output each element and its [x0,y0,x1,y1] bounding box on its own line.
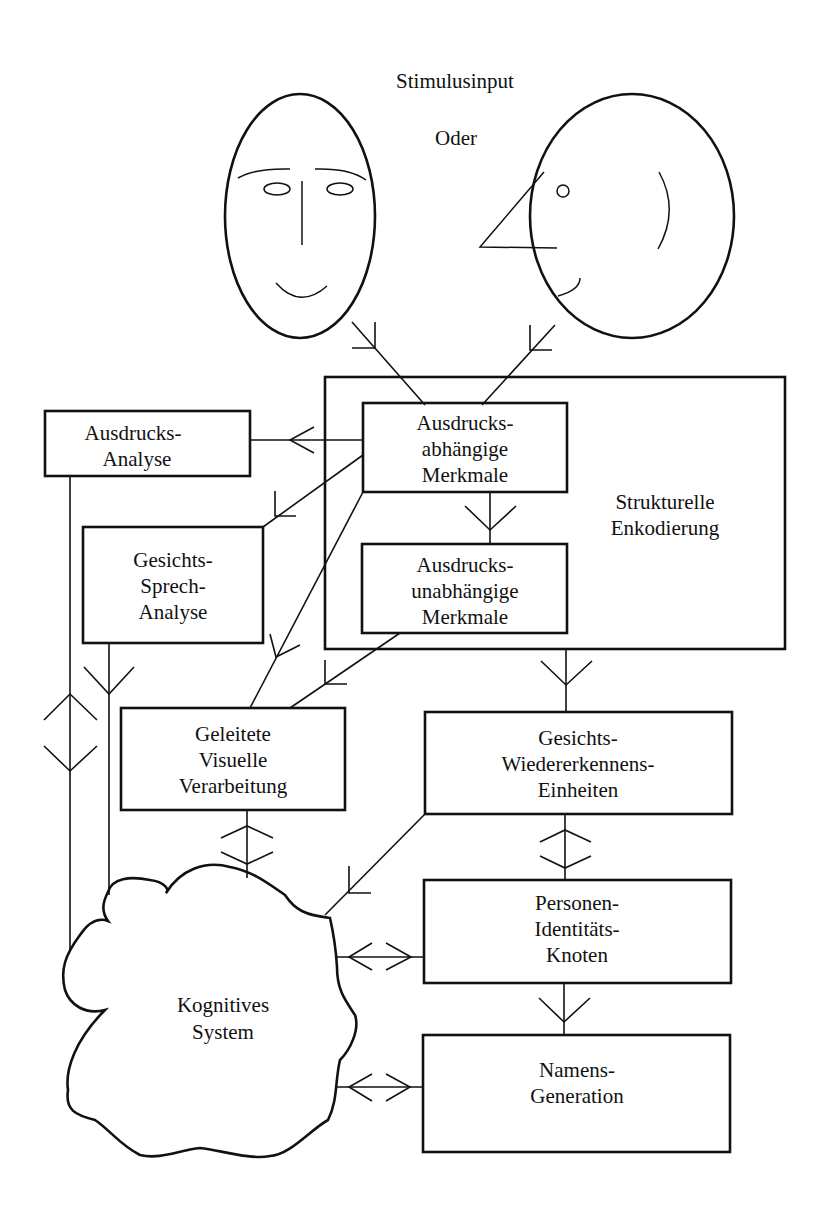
structural-encoding-box [325,377,785,649]
directed-visual-processing-label-2: Visuelle [199,748,268,772]
face-recognition-model-diagram: Stimulusinput Oder Strukturelle Enkodier… [0,0,822,1224]
expression-dependent-label-2: abhängige [422,437,508,461]
arrow-fru-to-cognitive [325,814,425,915]
name-generation-label-1: Namens- [539,1058,615,1082]
arrow-to-expression-analysis [250,427,363,453]
face-input-arrows [352,322,555,405]
facial-speech-analysis-label-3: Analyse [139,600,208,624]
frontal-face-icon [225,94,375,338]
expression-dependent-label-3: Merkmale [422,463,508,487]
name-generation-label-2: Generation [530,1084,624,1108]
facial-speech-analysis-label-2: Sprech- [140,574,205,598]
stimulus-input-label: Stimulusinput [396,69,514,93]
face-recognition-units-label-3: Einheiten [538,778,619,802]
expression-analysis-label-2: Analyse [103,447,172,471]
bidirectional-arrow-cognitive-name-generation [336,1074,423,1101]
structural-encoding-label-1: Strukturelle [615,490,714,514]
bidirectional-arrow-cognitive-pin [336,943,424,970]
arrow-dependent-to-independent [465,492,516,544]
profile-face-icon [480,94,734,338]
cognitive-system-label-1: Kognitives [177,993,269,1017]
expression-independent-label-1: Ausdrucks- [417,553,514,577]
arrow-pin-to-name-generation [539,983,590,1035]
bidirectional-arrow-expression-analysis-cognitive [44,476,97,950]
facial-speech-analysis-label-1: Gesichts- [133,548,212,572]
person-identity-nodes-label-2: Identitäts- [534,917,619,941]
person-identity-nodes-label-3: Knoten [546,943,608,967]
cognitive-system-label-2: System [192,1020,254,1044]
arrow-structural-encoding-to-fru [541,649,592,712]
expression-independent-label-3: Merkmale [422,605,508,629]
structural-encoding-label-2: Enkodierung [611,516,720,540]
expression-analysis-label-1: Ausdrucks- [85,421,182,445]
directed-visual-processing-label-3: Verarbeitung [179,774,288,798]
directed-visual-processing-label-1: Geleitete [195,722,271,746]
face-recognition-units-label-2: Wiedererkennens- [501,752,654,776]
arrow-to-facial-speech-analysis [263,455,363,527]
expression-independent-label-2: unabhängige [411,579,518,603]
or-label: Oder [435,126,477,150]
face-recognition-units-label-1: Gesichts- [538,726,617,750]
arrow-facial-speech-to-cognitive [84,643,134,895]
person-identity-nodes-label-1: Personen- [535,891,619,915]
bidirectional-arrow-fru-pin [540,814,591,880]
expression-dependent-label-1: Ausdrucks- [417,411,514,435]
